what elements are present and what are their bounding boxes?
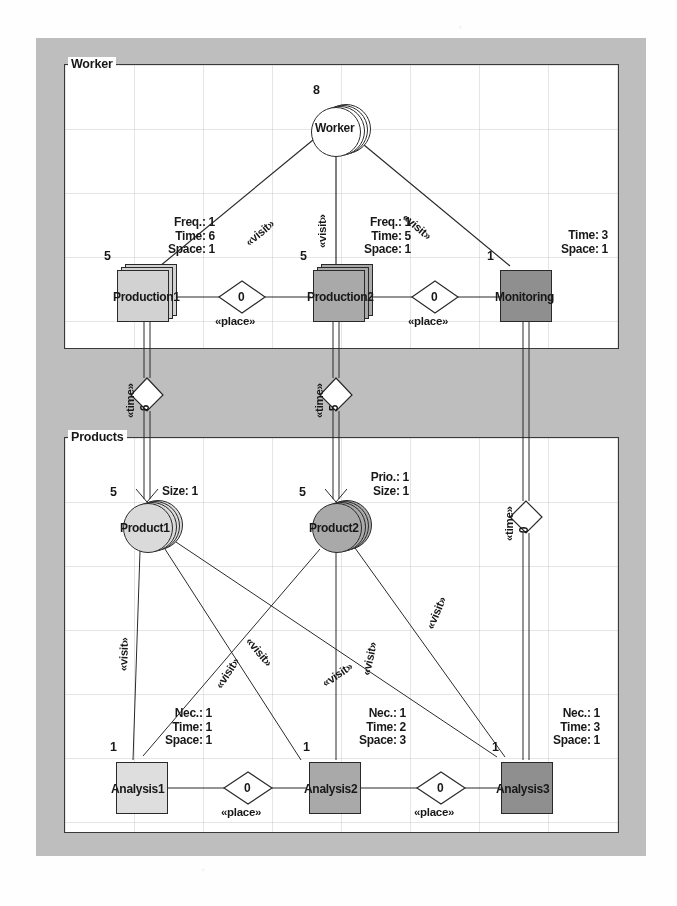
attr-line: Nec.: 1 <box>284 707 406 721</box>
attr-line: Time: 5 <box>286 230 411 244</box>
connector-value-place-analysis1-analysis2: 0 <box>244 781 251 795</box>
attr-line: Space: 3 <box>284 734 406 748</box>
attr-line: Nec.: 1 <box>90 707 212 721</box>
connector-label-time-prod2-product2: «time» <box>313 383 325 418</box>
attr-line: Freq.: 1 <box>286 216 411 230</box>
connector-label-place-analysis1-analysis2: «place» <box>221 806 261 818</box>
connector-value-time-prod2-product2: 5 <box>327 405 341 412</box>
connector-value-place-prod2-monitoring: 0 <box>431 290 438 304</box>
connector-label-place-prod1-prod2: «place» <box>215 315 255 327</box>
attr-line: Freq.: 1 <box>90 216 215 230</box>
node-analysis3-attributes: Nec.: 1 Time: 3 Space: 1 <box>478 707 600 748</box>
node-product1-label: Product1 <box>120 521 170 535</box>
node-analysis2-label: Analysis2 <box>304 782 357 796</box>
connector-value-time-monitoring-analysis3: 0 <box>517 527 531 534</box>
node-worker-label: Worker <box>315 121 354 135</box>
node-analysis1-label: Analysis1 <box>111 782 164 796</box>
attr-line: Nec.: 1 <box>478 707 600 721</box>
attr-line: Time: 3 <box>478 721 600 735</box>
attr-line: Prio.: 1 <box>284 471 409 485</box>
node-product2-attributes: Prio.: 1 Size: 1 <box>284 471 409 498</box>
node-product1-attributes: Size: 1 <box>90 485 205 499</box>
attr-line: Time: 1 <box>90 721 212 735</box>
node-production1-label: Production1 <box>113 290 180 304</box>
node-product2-label: Product2 <box>309 521 359 535</box>
attr-line: Space: 1 <box>483 243 608 257</box>
attr-line: Size: 1 <box>284 485 409 499</box>
node-worker-multiplicity: 8 <box>313 83 320 97</box>
connector-value-place-prod1-prod2: 0 <box>238 290 245 304</box>
connector-label-visit-worker-production2: «visit» <box>316 214 328 248</box>
attr-line: Space: 1 <box>286 243 411 257</box>
attr-line: Space: 1 <box>478 734 600 748</box>
connector-label-place-analysis2-analysis3: «place» <box>414 806 454 818</box>
node-monitoring-label: Monitoring <box>495 290 554 304</box>
connector-label-time-monitoring-analysis3: «time» <box>503 506 515 541</box>
node-monitoring-attributes: Time: 3 Space: 1 <box>483 229 608 256</box>
attr-line: Time: 2 <box>284 721 406 735</box>
node-production2-label: Production2 <box>307 290 374 304</box>
connector-label-visit-product1-analysis1: «visit» <box>117 637 130 671</box>
node-analysis3-label: Analysis3 <box>496 782 549 796</box>
node-production1-attributes: Freq.: 1 Time: 6 Space: 1 <box>90 216 215 257</box>
connector-label-place-prod2-monitoring: «place» <box>408 315 448 327</box>
node-production2-attributes: Freq.: 1 Time: 5 Space: 1 <box>286 216 411 257</box>
connector-value-place-analysis2-analysis3: 0 <box>437 781 444 795</box>
connector-value-time-prod1-product1: 6 <box>138 405 152 412</box>
attr-line: Time: 3 <box>483 229 608 243</box>
attr-line: Space: 1 <box>90 734 212 748</box>
attr-line: Size: 1 <box>162 485 205 499</box>
attr-line: Time: 6 <box>90 230 215 244</box>
node-analysis2-attributes: Nec.: 1 Time: 2 Space: 3 <box>284 707 406 748</box>
node-analysis1-attributes: Nec.: 1 Time: 1 Space: 1 <box>90 707 212 748</box>
attr-line: Space: 1 <box>90 243 215 257</box>
connector-label-time-prod1-product1: «time» <box>124 383 136 418</box>
